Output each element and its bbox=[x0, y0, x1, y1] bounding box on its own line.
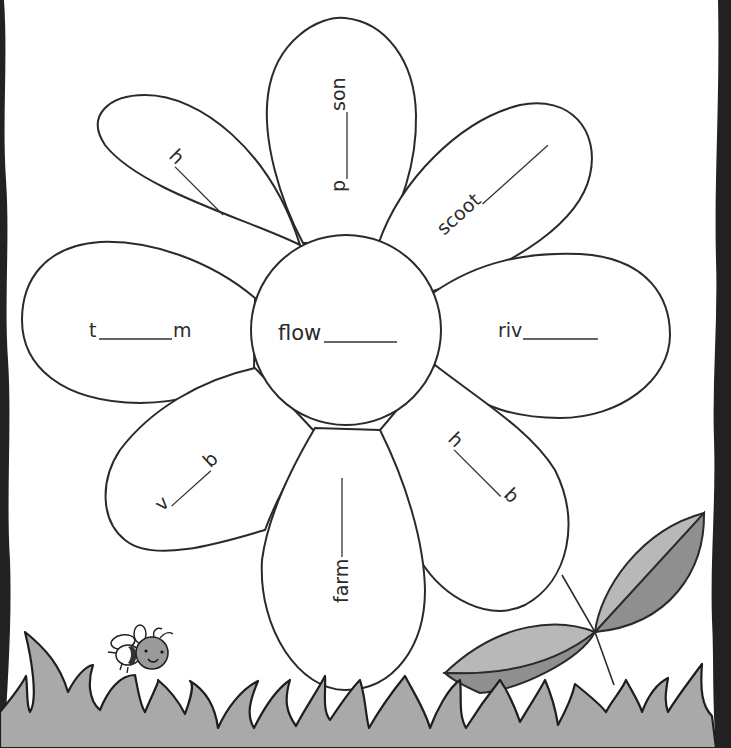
word-suffix: son bbox=[327, 77, 349, 111]
word-suffix: m bbox=[173, 319, 192, 341]
word-prefix: farm bbox=[330, 559, 352, 603]
bee-illustration bbox=[108, 625, 173, 673]
word-prefix: riv bbox=[498, 319, 522, 341]
word-prefix: t bbox=[89, 319, 96, 341]
left-border bbox=[0, 0, 11, 748]
right-border bbox=[712, 0, 731, 748]
word-prefix: p bbox=[327, 180, 349, 192]
flower-worksheet: p son scoot riv h b farm v b t m h bbox=[0, 0, 731, 748]
word-prefix: flow bbox=[278, 321, 321, 345]
